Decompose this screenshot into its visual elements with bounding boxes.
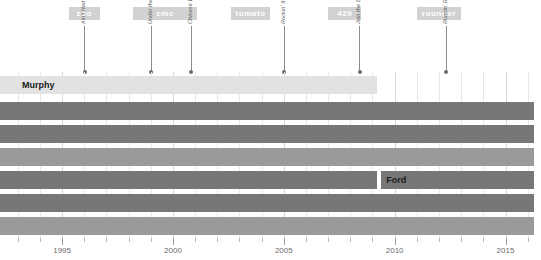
event-stem-line: [446, 26, 447, 72]
axis-major-tick: [395, 238, 396, 245]
axis-tick-label: 2015: [497, 246, 515, 255]
axis-minor-tick: [18, 238, 19, 242]
axis-minor-tick: [372, 238, 373, 242]
bar-segment[interactable]: [0, 194, 534, 212]
axis-major-tick: [173, 238, 174, 245]
axis-minor-tick: [328, 238, 329, 242]
axis-major-tick: [284, 238, 285, 245]
bar-segment[interactable]: [0, 217, 534, 235]
label-badge[interactable]: tomato: [231, 7, 271, 20]
axis-minor-tick: [439, 238, 440, 242]
axis-minor-tick: [151, 238, 152, 242]
axis-minor-tick: [417, 238, 418, 242]
event-stem-line: [151, 26, 152, 72]
axis-tick-label: 1995: [53, 246, 71, 255]
axis-minor-tick: [195, 238, 196, 242]
event-title: Runnin' Rig: [442, 0, 448, 24]
bar-segment[interactable]: Murphy: [0, 76, 377, 94]
axis-minor-tick: [262, 238, 263, 242]
axis-minor-tick: [129, 238, 130, 242]
axis-minor-tick: [239, 238, 240, 242]
bar-segment[interactable]: [0, 102, 534, 120]
axis-minor-tick: [84, 238, 85, 242]
event-title: Rockin' It at the Barn: [280, 0, 286, 24]
axis-minor-tick: [40, 238, 41, 242]
axis-minor-tick: [483, 238, 484, 242]
bar-segment[interactable]: Ford: [381, 171, 534, 189]
plot-area: MurphyFord: [0, 72, 541, 238]
axis-minor-tick: [217, 238, 218, 242]
axis-major-tick: [62, 238, 63, 245]
axis-minor-tick: [461, 238, 462, 242]
bar-segment[interactable]: [0, 125, 534, 143]
axis-major-tick: [506, 238, 507, 245]
x-axis: 19952000200520102015: [0, 238, 541, 260]
axis-minor-tick: [306, 238, 307, 242]
axis-tick-label: 2000: [164, 246, 182, 255]
event-stem-line: [84, 26, 85, 72]
bar-label: Ford: [386, 175, 406, 185]
event-title: Chinese Work Songs: [187, 0, 193, 24]
event-title: Ain't Had Enough Fun: [80, 0, 86, 24]
axis-tick-label: 2010: [386, 246, 404, 255]
bar-label: Murphy: [22, 80, 55, 90]
event-title: Join the Band: [355, 0, 361, 24]
bar-segment[interactable]: [0, 171, 377, 189]
axis-tick-label: 2005: [275, 246, 293, 255]
event-stem-line: [359, 26, 360, 72]
axis-minor-tick: [106, 238, 107, 242]
axis-minor-tick: [528, 238, 529, 242]
label-badge[interactable]: rounder: [417, 7, 461, 20]
event-stem-line: [191, 26, 192, 72]
bar-segment[interactable]: [0, 148, 534, 166]
event-title: Under the Radar: [147, 0, 153, 24]
event-stem-line: [284, 26, 285, 72]
axis-minor-tick: [350, 238, 351, 242]
timeline-chart: zoocmctomato429rounder Ain't Had Enough …: [0, 0, 541, 260]
